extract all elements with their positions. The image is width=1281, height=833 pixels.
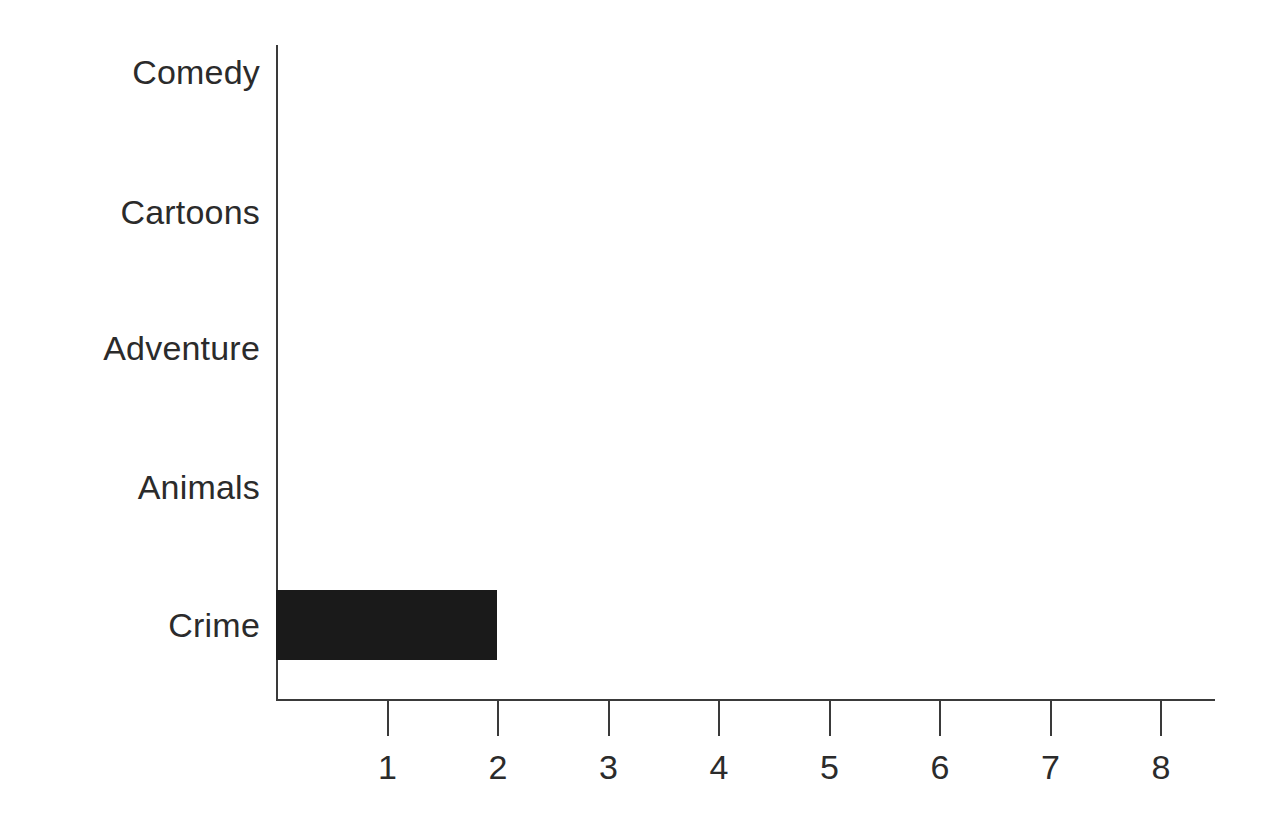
x-tick-mark-3 — [608, 701, 610, 736]
x-axis-line — [276, 699, 1215, 701]
x-tick-mark-7 — [1050, 701, 1052, 736]
x-tick-label-3: 3 — [579, 748, 639, 786]
bar-crime — [276, 590, 497, 660]
x-tick-mark-1 — [387, 701, 389, 736]
x-tick-label-5: 5 — [800, 748, 860, 786]
x-tick-mark-4 — [718, 701, 720, 736]
category-label-comedy: Comedy — [132, 55, 260, 89]
x-tick-label-2: 2 — [468, 748, 528, 786]
x-tick-label-8: 8 — [1131, 748, 1191, 786]
x-tick-label-1: 1 — [358, 748, 418, 786]
category-label-adventure: Adventure — [103, 331, 260, 365]
category-label-crime: Crime — [168, 608, 260, 642]
category-label-cartoons: Cartoons — [120, 195, 260, 229]
x-tick-label-6: 6 — [910, 748, 970, 786]
x-tick-label-7: 7 — [1021, 748, 1081, 786]
x-tick-label-4: 4 — [689, 748, 749, 786]
bar-chart: ComedyCartoonsAdventureAnimalsCrime 1234… — [0, 0, 1281, 833]
category-label-animals: Animals — [138, 470, 260, 504]
x-tick-mark-2 — [497, 701, 499, 736]
x-tick-mark-6 — [939, 701, 941, 736]
x-tick-mark-8 — [1160, 701, 1162, 736]
x-tick-mark-5 — [829, 701, 831, 736]
